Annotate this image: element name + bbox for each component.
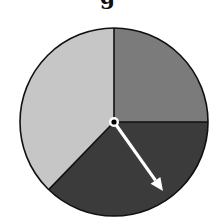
spinner-hub-pin <box>111 119 116 124</box>
spinner <box>0 0 213 218</box>
sector-upper-right <box>114 28 208 122</box>
